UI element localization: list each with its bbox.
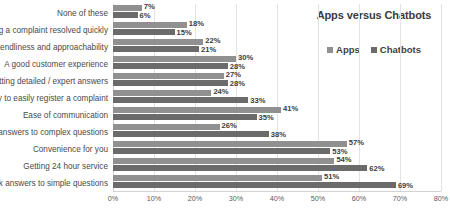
gridline xyxy=(441,4,442,191)
bar-group: Getting 24 hour service54%62% xyxy=(113,157,441,174)
category-label: Friendliness and approachability xyxy=(0,42,108,51)
x-axis-tick-label: 10% xyxy=(147,194,161,203)
category-label: None of these xyxy=(57,8,108,17)
bar-value-label: 69% xyxy=(398,181,413,190)
category-label: Quick answers to simple questions xyxy=(0,178,108,187)
bar-value-label: 26% xyxy=(222,121,237,130)
bar-value-label: 30% xyxy=(238,53,253,62)
bar-apps[interactable] xyxy=(113,56,236,62)
bar-group: Getting detailed / expert answers27%28% xyxy=(113,72,441,89)
bar-value-label: 15% xyxy=(177,28,192,37)
bar-chatbots[interactable] xyxy=(113,29,175,35)
bar-chatbots[interactable] xyxy=(113,131,269,137)
bar-apps[interactable] xyxy=(113,5,142,11)
category-label: Getting 24 hour service xyxy=(23,161,108,170)
bar-chatbots[interactable] xyxy=(113,80,228,86)
bar-value-label: 28% xyxy=(230,79,245,88)
bar-chatbots[interactable] xyxy=(113,165,367,171)
x-axis-tick-label: 20% xyxy=(188,194,202,203)
x-axis-tick-label: 50% xyxy=(311,194,325,203)
x-axis-baseline xyxy=(113,191,441,192)
bar-group: A good customer experience30%28% xyxy=(113,55,441,72)
bar-apps[interactable] xyxy=(113,73,224,79)
bar-value-label: 6% xyxy=(140,11,151,20)
bar-chatbots[interactable] xyxy=(113,148,330,154)
bar-value-label: 41% xyxy=(283,104,298,113)
bar-chatbots[interactable] xyxy=(113,182,396,188)
bar-group: Convenience for you57%53% xyxy=(113,140,441,157)
x-axis-tick-label: 40% xyxy=(270,194,284,203)
bar-value-label: 54% xyxy=(336,155,351,164)
bar-group: Having a complaint resolved quickly18%15… xyxy=(113,21,441,38)
category-label: Ability to easily register a complaint xyxy=(0,93,108,102)
bar-group: Friendliness and approachability22%21% xyxy=(113,38,441,55)
bar-value-label: 22% xyxy=(205,36,220,45)
bar-apps[interactable] xyxy=(113,158,334,164)
bar-apps[interactable] xyxy=(113,39,203,45)
x-axis-tick-label: 80% xyxy=(434,194,448,203)
bar-apps[interactable] xyxy=(113,124,220,130)
bar-value-label: 18% xyxy=(189,19,204,28)
category-label: Getting detailed / expert answers xyxy=(0,76,108,85)
bar-value-label: 57% xyxy=(349,138,364,147)
x-axis-tick-label: 70% xyxy=(393,194,407,203)
bar-value-label: 33% xyxy=(250,96,265,105)
x-axis-tick-label: 30% xyxy=(229,194,243,203)
bar-value-label: 27% xyxy=(226,70,241,79)
x-axis-tick-label: 60% xyxy=(352,194,366,203)
category-label: Having a complaint resolved quickly xyxy=(0,25,108,34)
bar-chatbots[interactable] xyxy=(113,12,138,18)
bar-chatbots[interactable] xyxy=(113,114,257,120)
bar-apps[interactable] xyxy=(113,90,211,96)
bar-value-label: 7% xyxy=(144,2,155,11)
category-label: A good customer experience xyxy=(4,59,108,68)
bar-value-label: 35% xyxy=(259,113,274,122)
bar-value-label: 21% xyxy=(201,45,216,54)
bar-value-label: 51% xyxy=(324,172,339,181)
x-axis: 0%10%20%30%40%50%60%70%80% xyxy=(113,191,441,205)
bar-chart: Apps versus Chatbots AppsChatbots None o… xyxy=(0,0,450,209)
category-label: Ease of communication xyxy=(23,110,108,119)
category-label: Quick answers to complex questions xyxy=(0,127,108,136)
bar-chatbots[interactable] xyxy=(113,97,248,103)
bar-group: None of these7%6% xyxy=(113,4,441,21)
bar-chatbots[interactable] xyxy=(113,63,228,69)
category-label: Convenience for you xyxy=(33,144,108,153)
bar-apps[interactable] xyxy=(113,107,281,113)
bar-value-label: 38% xyxy=(271,130,286,139)
bar-group: Ability to easily register a complaint24… xyxy=(113,89,441,106)
bar-group: Quick answers to simple questions51%69% xyxy=(113,174,441,191)
bar-value-label: 24% xyxy=(213,87,228,96)
plot-area: None of these7%6%Having a complaint reso… xyxy=(113,4,441,191)
bar-group: Ease of communication41%35% xyxy=(113,106,441,123)
bar-chatbots[interactable] xyxy=(113,46,199,52)
x-axis-tick-label: 0% xyxy=(108,194,118,203)
bar-apps[interactable] xyxy=(113,141,347,147)
bar-group: Quick answers to complex questions26%38% xyxy=(113,123,441,140)
bar-value-label: 62% xyxy=(369,164,384,173)
bar-apps[interactable] xyxy=(113,175,322,181)
